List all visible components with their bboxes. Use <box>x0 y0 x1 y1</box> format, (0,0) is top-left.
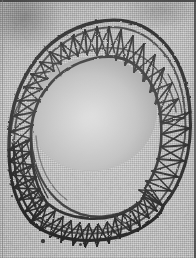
front-wall-lattice <box>31 190 163 247</box>
basket-illustration <box>0 0 196 258</box>
plate-border-left <box>2 0 3 258</box>
plate-border-right <box>194 0 196 258</box>
scan-speck <box>167 119 169 121</box>
plate-border-top <box>0 0 196 2</box>
scan-speck <box>41 239 44 242</box>
scanned-photo-figure <box>0 0 196 258</box>
scan-speck <box>79 243 82 246</box>
